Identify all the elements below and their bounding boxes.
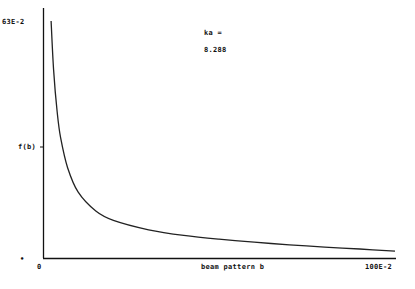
y-min-tick-label: • [20,255,25,263]
annotation-label: ka = [204,29,222,37]
annotation-value: 8.288 [204,46,227,54]
x-axis-label: beam pattern b [201,263,264,271]
y-max-tick-label: 63E-2 [2,18,25,26]
y-axis-label: f(b) [18,143,36,151]
x-min-tick-label: 0 [37,263,42,271]
x-max-tick-label: 100E-2 [365,263,392,271]
data-curve [51,21,395,251]
plot-area [0,0,415,289]
